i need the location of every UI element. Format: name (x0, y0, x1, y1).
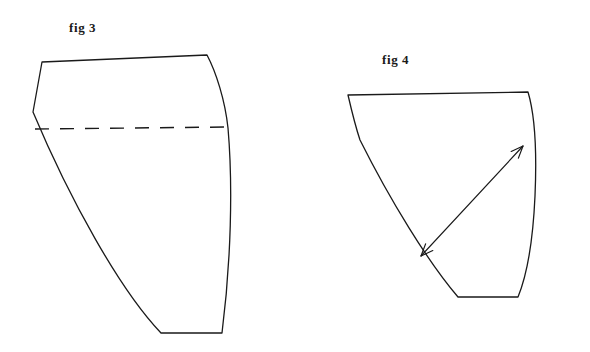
fig4-outline-path (348, 92, 536, 297)
figure-fig4-group (348, 92, 536, 297)
fig3-outline-path (33, 55, 231, 333)
figures-svg (0, 0, 590, 352)
fig4-caption: fig 4 (382, 52, 409, 68)
arrow-shaft (421, 146, 523, 256)
fig4-bias-direction-arrow (421, 146, 523, 256)
diagram-canvas: fig 3 fig 4 (0, 0, 590, 352)
fig3-dashed-fold-line (35, 127, 228, 129)
figure-fig3-group (33, 55, 231, 333)
fig3-caption: fig 3 (69, 20, 96, 36)
